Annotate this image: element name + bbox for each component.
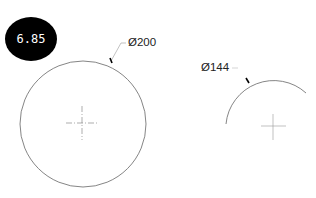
circle-large xyxy=(20,61,146,187)
leader-200 xyxy=(111,43,126,61)
badge-value: 6.85 xyxy=(17,32,46,46)
arc-small xyxy=(226,81,306,124)
dimension-label-200: Ø200 xyxy=(128,36,156,48)
dimension-label-144: Ø144 xyxy=(201,61,229,73)
value-badge: 6.85 xyxy=(5,17,57,61)
center-mark-large xyxy=(66,106,98,140)
center-mark-small xyxy=(261,114,286,140)
